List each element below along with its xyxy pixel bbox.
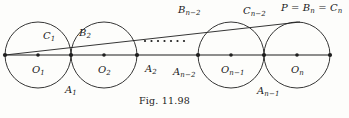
label-an-2: An−2 xyxy=(173,67,195,77)
label-a1: A1 xyxy=(65,85,77,95)
ellipsis-dot xyxy=(150,40,152,42)
ellipsis-dot xyxy=(157,40,159,42)
label-o1-sub: 1 xyxy=(40,69,45,77)
point-center-o2 xyxy=(102,53,106,57)
point-tangent-an-1 xyxy=(262,53,266,57)
figure-11-98: C1 B2 Bn−2 Cn−2 P = Bn = Cn O1 O2 On−1 O… xyxy=(0,0,349,118)
label-a2: A2 xyxy=(145,64,157,74)
point-tangent-an-2 xyxy=(196,53,200,57)
point-right-end xyxy=(328,53,332,57)
label-p-eq-text2: = C xyxy=(315,2,338,13)
point-center-o1 xyxy=(36,53,40,57)
label-b2: B2 xyxy=(79,28,91,38)
point-left-end xyxy=(3,53,7,57)
figure-caption: Fig. 11.98 xyxy=(139,95,190,106)
point-center-on xyxy=(295,53,299,57)
point-tangent-a1 xyxy=(69,53,73,57)
label-on-sub: n xyxy=(299,69,304,77)
label-an-1: An−1 xyxy=(257,86,279,96)
ellipsis-dot xyxy=(183,40,185,42)
label-on-1: On−1 xyxy=(221,65,244,75)
label-b2-sub: 2 xyxy=(86,32,91,40)
label-p-equals-bn-equals-cn: P = Bn = Cn xyxy=(281,3,342,13)
label-bn-2: Bn−2 xyxy=(178,5,201,15)
label-o1: O1 xyxy=(32,65,45,75)
ellipsis-dot xyxy=(163,40,165,42)
label-c1-base: C xyxy=(43,30,51,41)
label-a1-sub: 1 xyxy=(72,89,77,97)
label-p-eq-sub2: n xyxy=(338,7,343,15)
label-a2-sub: 2 xyxy=(152,68,157,76)
label-cn-2-base: C xyxy=(243,5,251,16)
point-center-on-1 xyxy=(229,53,233,57)
label-on-1-sub: n−1 xyxy=(229,69,244,77)
label-p-eq-sub1: n xyxy=(310,7,315,15)
point-tangent-a2 xyxy=(135,53,139,57)
ellipsis-dot xyxy=(170,40,172,42)
label-p-eq-text1: P = B xyxy=(281,2,310,13)
label-c1-sub: 1 xyxy=(51,35,56,43)
label-o2: O2 xyxy=(98,65,111,75)
ellipsis-dots xyxy=(144,40,185,42)
label-on: On xyxy=(291,65,304,75)
label-an-2-sub: n−2 xyxy=(180,71,195,79)
label-an-1-sub: n−1 xyxy=(264,90,279,98)
label-cn-2: Cn−2 xyxy=(243,6,266,16)
ellipsis-dot xyxy=(144,40,146,42)
label-o2-sub: 2 xyxy=(106,69,111,77)
label-c1: C1 xyxy=(43,31,55,41)
label-cn-2-sub: n−2 xyxy=(251,10,266,18)
label-bn-2-sub: n−2 xyxy=(185,9,200,17)
ellipsis-dot xyxy=(176,40,178,42)
